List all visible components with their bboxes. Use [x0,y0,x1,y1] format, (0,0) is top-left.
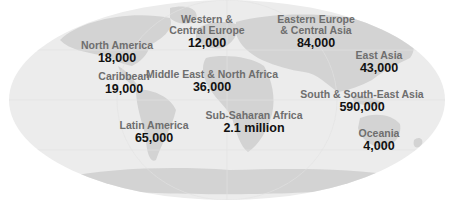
region-value: 18,000 [81,52,153,65]
region-label-oceania: Oceania 4,000 [359,128,400,153]
region-label-south-southeast-asia: South & South-East Asia 590,000 [300,89,423,114]
region-label-western-central-europe: Western & Central Europe 12,000 [169,14,244,50]
region-value: 43,000 [356,62,403,75]
region-label-east-asia: East Asia 43,000 [356,50,403,75]
region-value: 590,000 [300,101,423,114]
new-zealand-shape [414,138,423,148]
region-name: Caribbean [98,71,149,82]
region-value: 4,000 [359,140,400,153]
region-label-eastern-europe-central-asia: Eastern Europe & Central Asia 84,000 [277,14,355,50]
region-label-middle-east-north-africa: Middle East & North Africa 36,000 [146,69,278,94]
region-label-north-america: North America 18,000 [81,40,153,65]
region-name: East Asia [356,50,403,61]
region-label-sub-saharan-africa: Sub-Saharan Africa 2.1 million [205,110,302,135]
region-name: North America [81,40,153,51]
region-name: South & South-East Asia [300,89,423,100]
region-name-line-2: & Central Asia [277,25,355,36]
region-label-latin-america: Latin America 65,000 [119,120,188,145]
region-value: 84,000 [277,37,355,50]
region-value: 65,000 [119,132,188,145]
region-name: Sub-Saharan Africa [205,110,302,121]
region-value: 36,000 [146,81,278,94]
antarctica-shape [60,168,400,194]
region-value: 19,000 [98,83,149,96]
region-label-caribbean: Caribbean 19,000 [98,71,149,96]
region-name: Middle East & North Africa [146,69,278,80]
region-name: Oceania [359,128,400,139]
region-value: 12,000 [169,37,244,50]
region-value: 2.1 million [205,122,302,135]
region-name-line-2: Central Europe [169,25,244,36]
region-name: Latin America [119,120,188,131]
